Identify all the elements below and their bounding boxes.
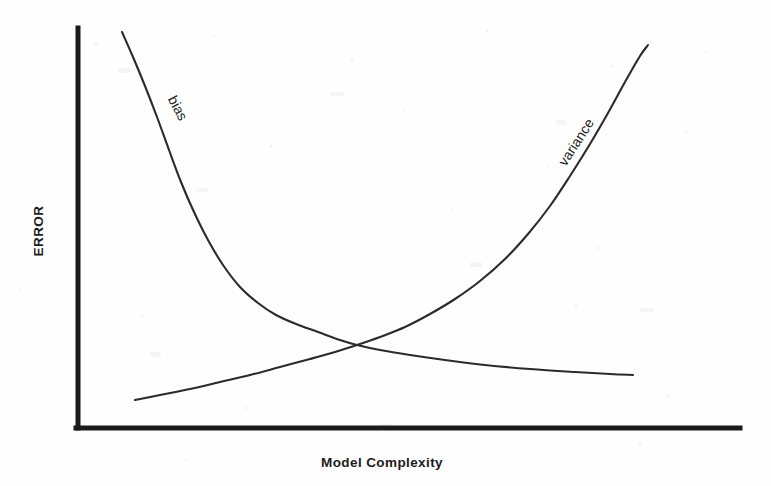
y-axis-title: ERROR [31,206,46,257]
bias-variance-chart: ERROR Model Complexity bias variance [0,0,771,486]
variance-curve [135,45,648,400]
plot-canvas [0,0,771,486]
x-axis-title: Model Complexity [321,455,443,470]
bias-curve [122,32,633,375]
